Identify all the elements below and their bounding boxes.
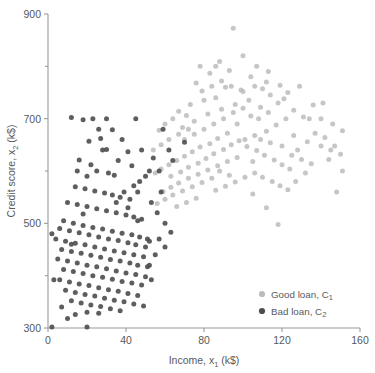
- data-point: [143, 244, 148, 249]
- data-point: [90, 273, 95, 278]
- chart-canvas: 300500700900 04080120160 Good loan, C1Ba…: [0, 0, 375, 373]
- data-point: [112, 298, 117, 303]
- data-point: [166, 162, 171, 167]
- data-point: [320, 100, 325, 105]
- data-point: [163, 221, 168, 226]
- data-point: [125, 205, 130, 210]
- data-point: [65, 316, 70, 321]
- data-point: [98, 136, 103, 141]
- x-tick-label: 120: [273, 334, 291, 346]
- data-point: [118, 259, 123, 264]
- y-axis-ticks: 300500700900: [23, 8, 48, 334]
- data-point: [69, 249, 74, 254]
- data-point: [131, 183, 136, 188]
- data-point: [85, 310, 90, 315]
- data-point: [264, 80, 269, 85]
- data-point: [194, 81, 199, 86]
- data-point: [104, 116, 109, 121]
- data-point: [180, 188, 185, 193]
- data-point: [112, 173, 117, 178]
- data-point: [124, 212, 129, 217]
- data-point: [311, 103, 316, 108]
- data-point: [141, 304, 146, 309]
- data-point: [125, 240, 130, 245]
- data-point: [100, 275, 105, 280]
- data-point: [49, 231, 54, 236]
- data-point: [196, 161, 201, 166]
- data-point: [202, 127, 207, 132]
- data-point: [79, 251, 84, 256]
- data-point: [73, 184, 78, 189]
- data-point: [244, 144, 249, 149]
- data-point: [137, 234, 142, 239]
- data-point: [248, 114, 253, 119]
- data-point: [163, 121, 168, 126]
- data-point: [213, 64, 218, 69]
- data-point: [125, 291, 130, 296]
- legend-marker: [259, 291, 265, 297]
- x-tick-label: 40: [120, 334, 132, 346]
- data-point: [147, 239, 152, 244]
- data-point: [69, 115, 74, 120]
- data-point: [198, 144, 203, 149]
- y-tick-label: 700: [23, 113, 41, 125]
- data-point: [235, 155, 240, 160]
- data-point: [90, 225, 95, 230]
- data-point: [104, 208, 109, 213]
- data-point: [88, 162, 93, 167]
- data-point: [79, 300, 84, 305]
- data-point: [83, 186, 88, 191]
- data-point: [215, 136, 220, 141]
- data-point: [57, 226, 62, 231]
- data-point: [153, 252, 158, 257]
- data-point: [207, 141, 212, 146]
- data-point: [200, 180, 205, 185]
- data-point: [75, 169, 80, 174]
- data-point: [96, 127, 101, 132]
- data-point: [176, 109, 181, 114]
- data-point: [176, 181, 181, 186]
- data-point: [198, 64, 203, 69]
- data-point: [229, 142, 234, 147]
- data-point: [340, 169, 345, 174]
- data-point: [241, 106, 246, 111]
- data-point: [170, 158, 175, 163]
- data-point: [110, 229, 115, 234]
- data-point: [299, 157, 304, 162]
- data-point: [233, 102, 238, 107]
- data-point: [94, 264, 99, 269]
- data-point: [88, 253, 93, 258]
- data-point: [209, 84, 214, 89]
- data-point: [264, 205, 269, 210]
- data-point: [108, 306, 113, 311]
- data-point: [116, 289, 121, 294]
- data-point: [231, 26, 236, 31]
- data-point: [83, 292, 88, 297]
- data-point: [71, 221, 76, 226]
- data-point: [135, 218, 140, 223]
- data-point: [274, 122, 279, 127]
- data-point: [51, 277, 56, 282]
- data-point: [283, 116, 288, 121]
- data-point: [326, 157, 331, 162]
- data-point: [106, 171, 111, 176]
- data-point: [65, 259, 70, 264]
- series-good-loan: [151, 26, 345, 227]
- data-point: [340, 128, 345, 133]
- data-point: [118, 195, 123, 200]
- data-point: [129, 232, 134, 237]
- data-point: [106, 237, 111, 242]
- data-point: [227, 68, 232, 73]
- data-point: [252, 84, 257, 89]
- data-point: [110, 127, 115, 132]
- data-point: [133, 242, 138, 247]
- data-point: [192, 132, 197, 137]
- data-point: [233, 179, 238, 184]
- data-point: [293, 179, 298, 184]
- data-point: [63, 288, 68, 293]
- data-point: [295, 148, 300, 153]
- data-point: [159, 142, 164, 147]
- data-point: [106, 287, 111, 292]
- data-point: [217, 169, 222, 174]
- data-point: [151, 155, 156, 160]
